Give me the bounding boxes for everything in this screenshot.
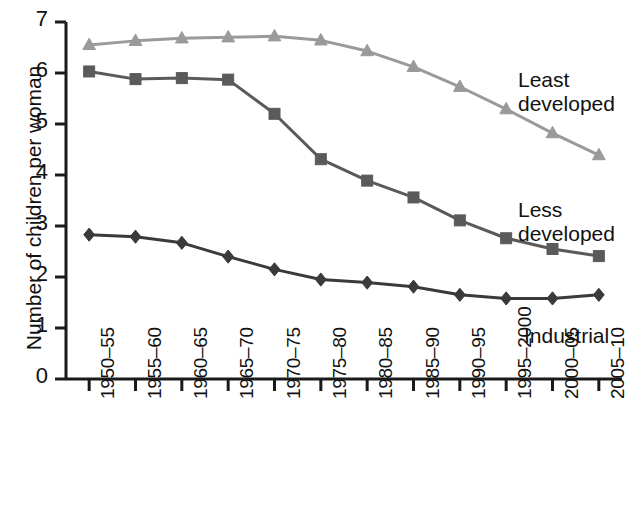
data-point-marker <box>547 243 558 254</box>
data-point-marker <box>593 288 604 301</box>
data-point-marker <box>315 273 326 286</box>
annotation-industrial: Industrial <box>524 324 609 348</box>
data-point-marker <box>454 288 465 301</box>
data-point-marker <box>84 66 95 77</box>
data-point-marker <box>593 251 604 262</box>
data-point-marker <box>408 280 419 293</box>
data-point-marker <box>269 263 280 276</box>
annotation-less-developed: Less developed <box>518 198 615 245</box>
data-point-marker <box>362 175 373 186</box>
data-point-marker <box>176 73 187 84</box>
data-point-marker <box>501 233 512 244</box>
data-point-marker <box>223 74 234 85</box>
data-point-marker <box>223 250 234 263</box>
data-point-marker <box>547 292 558 305</box>
data-point-marker <box>408 192 419 203</box>
x-axis-ticks <box>89 379 599 391</box>
data-point-marker <box>84 228 95 241</box>
y-axis-ticks <box>55 22 66 379</box>
data-point-marker <box>176 236 187 249</box>
data-point-marker <box>315 154 326 165</box>
data-point-marker <box>269 108 280 119</box>
data-point-marker <box>130 74 141 85</box>
data-point-marker <box>362 276 373 289</box>
fertility-rate-line-chart: Number of children per woman 01234567 19… <box>0 0 635 514</box>
annotation-least-developed: Least developed <box>518 68 615 115</box>
data-point-marker <box>501 292 512 305</box>
data-point-marker <box>454 215 465 226</box>
data-point-marker <box>130 230 141 243</box>
